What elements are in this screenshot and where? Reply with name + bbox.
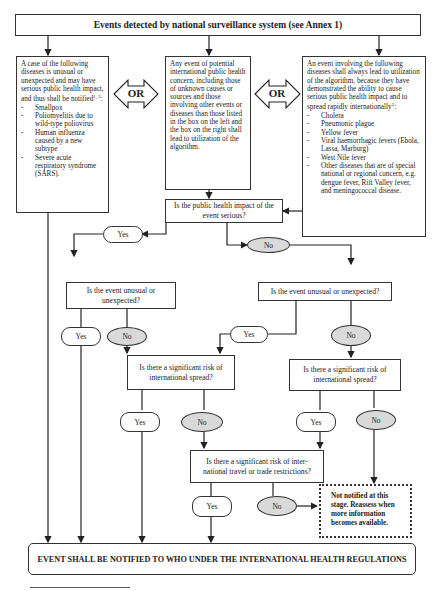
left-intro: A case of the following diseases is unus… xyxy=(21,60,104,104)
answer-no-q1: No xyxy=(247,237,290,253)
answer-no-q3-right: No xyxy=(356,410,396,430)
question-unusual-right: Is the event unusual or unexpected? xyxy=(258,282,392,301)
question-intl-spread-right: Is there a significant risk of internati… xyxy=(289,359,401,391)
answer-no-q2-left: No xyxy=(107,327,147,346)
notify-who-outcome-box: EVENT SHALL BE NOTIFIED TO WHO UNDER THE… xyxy=(28,543,416,575)
disease-item: Cholera xyxy=(307,112,421,120)
answer-yes-q4: Yes xyxy=(192,496,232,517)
footnote-divider xyxy=(30,587,130,588)
answer-no-q4: No xyxy=(257,496,297,516)
answer-yes-q2-left: Yes xyxy=(61,327,101,346)
notifiable-diseases-box: A case of the following diseases is unus… xyxy=(16,56,109,213)
answer-yes-q3-right: Yes xyxy=(296,412,336,432)
disease-item: Human influenza caused by a new subtype xyxy=(21,129,104,154)
answer-yes-q2-right: Yes xyxy=(230,326,268,343)
disease-item: Poliomyelitis due to wild-type polioviru… xyxy=(21,112,104,129)
disease-item: Viral haemorrhagic fevers (Ebola, Lassa,… xyxy=(307,137,421,154)
potential-concern-box: Any event of potential international pub… xyxy=(165,56,251,190)
question-serious-impact: Is the public health impact of the event… xyxy=(165,199,283,223)
or-label-right: OR xyxy=(261,87,293,99)
disease-item: Severe acute respiratory syndrome (SARS)… xyxy=(21,154,104,179)
disease-item: West Nile fever xyxy=(307,154,421,162)
disease-item: Smallpox xyxy=(21,104,104,112)
always-algorithm-diseases-box: An event involving the following disease… xyxy=(302,56,426,237)
answer-yes-q3-left: Yes xyxy=(120,412,160,432)
surveillance-title-box: Events detected by national surveillance… xyxy=(15,14,421,36)
question-travel-trade-restrictions: Is there a significant risk of inter-nat… xyxy=(190,450,324,483)
disease-item: Other diseases that are of special natio… xyxy=(307,162,421,195)
question-unusual-left: Is the event unusual or unexpected? xyxy=(66,282,176,309)
disease-item: Pneumonic plague xyxy=(307,120,421,128)
answer-yes-q1: Yes xyxy=(103,226,143,243)
question-intl-spread-left: Is there a significant risk of internati… xyxy=(127,355,235,390)
answer-no-q3-left: No xyxy=(181,412,223,432)
disease-item: Yellow fever xyxy=(307,129,421,137)
not-notified-box: Not notified at this stage. Reassess whe… xyxy=(319,484,412,538)
or-label-left: OR xyxy=(120,87,152,99)
answer-no-q2-right: No xyxy=(331,325,371,346)
